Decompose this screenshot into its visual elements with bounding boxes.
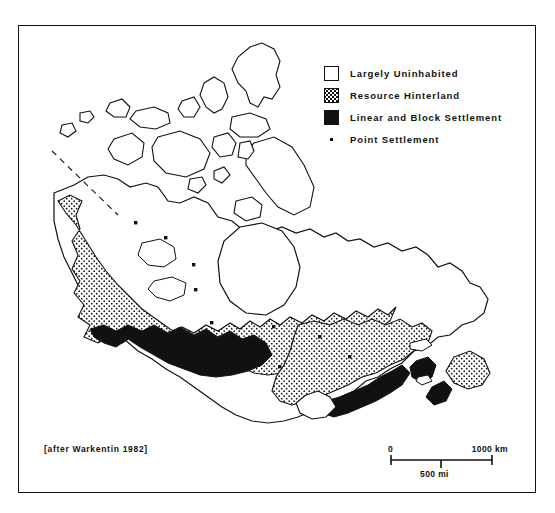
banks-island — [108, 133, 144, 165]
source-attribution: [after Warkentin 1982] — [44, 444, 148, 454]
point-settlement-dot — [348, 355, 351, 358]
white-square-icon — [324, 66, 339, 81]
point-settlement-dot — [164, 236, 167, 239]
legend-item-point-settlement[interactable]: Point Settlement — [324, 128, 524, 150]
map-figure: Largely Uninhabited Resource Hinterland … — [0, 0, 555, 513]
map-scalebar: 0 1000 km 500 mi — [388, 444, 508, 488]
point-settlement-dot — [318, 335, 321, 338]
legend-item-label: Point Settlement — [350, 134, 439, 145]
small-arctic-island-b — [60, 123, 76, 137]
legend-item-label: Linear and Block Settlement — [350, 112, 502, 123]
ellesmere-island — [232, 43, 280, 107]
bathurst-island — [178, 97, 200, 117]
point-settlement-dot — [278, 365, 281, 368]
prince-patrick-island — [106, 99, 130, 117]
victoria-island — [152, 131, 210, 177]
legend-item-linear-block-settlement[interactable]: Linear and Block Settlement — [324, 106, 524, 128]
prince-of-wales-island — [212, 133, 236, 157]
newfoundland-island — [446, 351, 490, 389]
devon-island — [230, 113, 270, 137]
black-square-icon — [324, 110, 339, 125]
point-settlement-dot — [194, 288, 197, 291]
point-settlement-dot — [272, 325, 275, 328]
axel-heiberg-island — [200, 77, 228, 113]
legend-item-label: Resource Hinterland — [350, 90, 460, 101]
pei-island — [416, 375, 432, 385]
point-settlement-dot — [134, 221, 137, 224]
map-legend: Largely Uninhabited Resource Hinterland … — [324, 62, 524, 150]
nova-scotia — [426, 381, 452, 405]
legend-item-label: Largely Uninhabited — [350, 68, 458, 79]
southampton-island — [234, 197, 262, 221]
legend-item-largely-uninhabited[interactable]: Largely Uninhabited — [324, 62, 524, 84]
dot-icon — [324, 132, 339, 147]
melville-island — [130, 107, 170, 129]
scalebar-graphic — [388, 444, 508, 488]
legend-item-resource-hinterland[interactable]: Resource Hinterland — [324, 84, 524, 106]
small-arctic-island-a — [80, 111, 94, 123]
point-settlement-dot — [192, 263, 195, 266]
stipple-square-icon — [324, 88, 339, 103]
point-settlement-dot — [210, 321, 213, 324]
small-arctic-island-c — [214, 167, 230, 183]
king-william-island — [188, 177, 206, 193]
